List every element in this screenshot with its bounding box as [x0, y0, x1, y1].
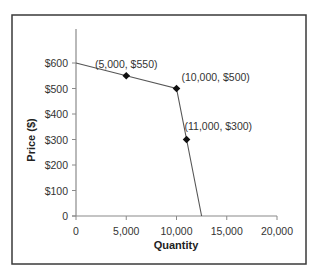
y-tick-label: $600 [45, 57, 69, 69]
point-annotation: (5,000, $550) [95, 58, 157, 70]
point-annotation: (11,000, $300) [185, 120, 253, 132]
x-axis-label: Quantity [154, 239, 199, 251]
x-tick-label: 5,000 [113, 225, 139, 237]
x-tick-label: 15,000 [211, 225, 243, 237]
y-tick-label: $300 [45, 134, 69, 146]
y-tick-label: 0 [62, 210, 68, 222]
y-axis-label: Price ($) [25, 118, 37, 162]
y-tick-label: $500 [45, 83, 69, 95]
demand-chart: 05,00010,00015,00020,000 0$100$200$300$4… [0, 0, 319, 276]
y-tick-label: $400 [45, 108, 69, 120]
point-annotation: (10,000, $500) [182, 71, 250, 83]
x-tick-label: 10,000 [160, 225, 192, 237]
x-tick-label: 0 [73, 225, 79, 237]
y-tick-label: $100 [45, 185, 69, 197]
y-tick-label: $200 [45, 159, 69, 171]
x-tick-label: 20,000 [261, 225, 293, 237]
